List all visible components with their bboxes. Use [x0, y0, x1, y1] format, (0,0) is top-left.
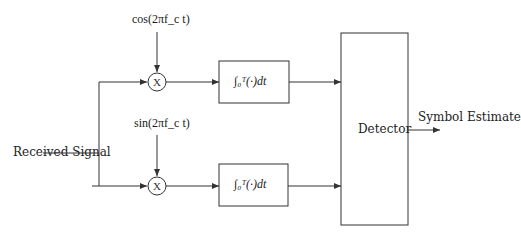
top-multiplier-symbol: X	[153, 76, 161, 88]
output-label: Symbol Estimate	[418, 110, 521, 124]
sin-carrier-label: sin(2πf_c t)	[134, 116, 190, 131]
detector-label: Detector	[358, 122, 411, 136]
bottom-integrator-label: ∫₀ᵀ(·)dt	[234, 177, 266, 192]
top-integrator-label: ∫₀ᵀ(·)dt	[234, 74, 266, 89]
bottom-multiplier-symbol: X	[153, 180, 161, 192]
cos-carrier-label: cos(2πf_c t)	[132, 12, 190, 27]
input-label: Received Signal	[13, 145, 111, 159]
